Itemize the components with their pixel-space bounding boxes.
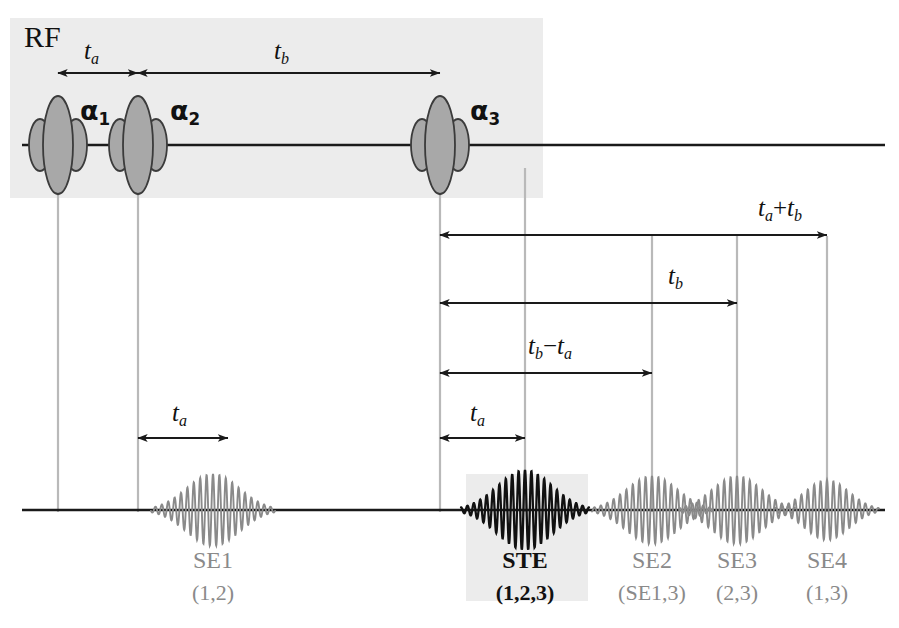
echo-origin-se4: (1,3) bbox=[806, 582, 848, 604]
measurement-subscript: a bbox=[765, 207, 773, 224]
flip-angle-label-alpha3: α3 bbox=[470, 97, 500, 128]
measurement-symbol: t bbox=[172, 399, 179, 426]
rf-channel-label: RF bbox=[24, 22, 61, 52]
measurement-subscript: a bbox=[477, 412, 485, 429]
flip-angle-subscript: 1 bbox=[99, 109, 111, 129]
echo-origin-ste: (1,2,3) bbox=[496, 582, 555, 604]
flip-angle-label-alpha1: α1 bbox=[80, 97, 110, 128]
interval-symbol: t bbox=[84, 37, 91, 64]
measurement-symbol: t bbox=[470, 399, 477, 426]
measurement-subscript-2: b bbox=[794, 207, 802, 224]
measurement-label-tb-span: tb bbox=[668, 263, 683, 292]
measurement-label-ta-plus-tb: ta+tb bbox=[758, 195, 802, 224]
echo-name-se1: SE1 bbox=[193, 548, 233, 572]
echo-name-se3: SE3 bbox=[717, 548, 757, 572]
measurement-label-tb-minus-ta: tb−ta bbox=[528, 333, 572, 362]
measurement-subscript: b bbox=[535, 345, 543, 362]
flip-angle-symbol: α bbox=[80, 95, 99, 126]
flip-angle-label-alpha2: α2 bbox=[170, 97, 200, 128]
echo-origin-se3: (2,3) bbox=[716, 582, 758, 604]
interval-subscript: b bbox=[281, 50, 289, 67]
measurement-symbol-2: t bbox=[787, 194, 794, 221]
measurement-operator: + bbox=[773, 194, 787, 221]
echo-origin-se2: (SE1,3) bbox=[618, 582, 686, 604]
flip-angle-symbol: α bbox=[170, 95, 189, 126]
measurement-subscript: a bbox=[179, 412, 187, 429]
measurement-symbol: t bbox=[528, 332, 535, 359]
flip-angle-symbol: α bbox=[470, 95, 489, 126]
echo-name-se4: SE4 bbox=[807, 548, 847, 572]
rf-pulse-main-lobe bbox=[123, 96, 153, 194]
measurement-label-ste-ta: ta bbox=[470, 400, 485, 429]
diagram-canvas bbox=[0, 0, 899, 628]
pulse-sequence-diagram: RF α1 α2 α3 ta tb ta+tb tb tb−ta ta ta S… bbox=[0, 0, 899, 628]
flip-angle-subscript: 3 bbox=[489, 109, 501, 129]
interval-label-rf-tb: tb bbox=[274, 38, 289, 67]
measurement-symbol: t bbox=[668, 262, 675, 289]
interval-symbol: t bbox=[274, 37, 281, 64]
rf-pulse-main-lobe bbox=[43, 96, 73, 194]
measurement-symbol: t bbox=[758, 194, 765, 221]
measurement-subscript: b bbox=[675, 275, 683, 292]
echo-name-se2: SE2 bbox=[632, 548, 672, 572]
interval-subscript: a bbox=[91, 50, 99, 67]
echo-origin-se1: (1,2) bbox=[192, 582, 234, 604]
interval-label-rf-ta: ta bbox=[84, 38, 99, 67]
rf-pulse-main-lobe bbox=[425, 96, 455, 194]
measurement-operator: − bbox=[543, 332, 557, 359]
measurement-subscript-2: a bbox=[564, 345, 572, 362]
measurement-label-se1-ta: ta bbox=[172, 400, 187, 429]
echo-name-ste: STE bbox=[502, 548, 547, 572]
flip-angle-subscript: 2 bbox=[189, 109, 201, 129]
measurement-symbol-2: t bbox=[557, 332, 564, 359]
